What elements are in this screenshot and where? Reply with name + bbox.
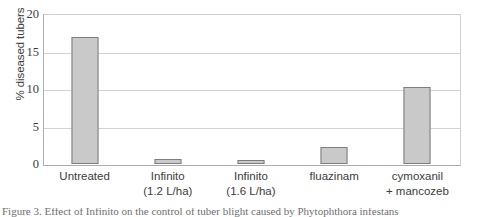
bar-infinito-1-2-lha	[154, 159, 181, 164]
x-tick-label-cymoxanil-mancozeb: cymoxanil + mancozeb	[376, 169, 459, 199]
bar-slot-infinito-12	[126, 14, 209, 164]
x-tick-label-fluazinam: fluazinam	[293, 169, 376, 184]
bar-cymoxanil-mancozeb	[404, 87, 431, 164]
bar-untreated	[71, 37, 98, 164]
bar-infinito-1-6-lha	[237, 160, 264, 165]
x-axis-tick-labels: Untreated Infinito (1.2 L/ha) Infinito (…	[43, 169, 459, 205]
x-tick-label-infinito-12-line2: (1.2 L/ha)	[126, 184, 209, 199]
x-tick-label-cymoxanil-mancozeb-line2: + mancozeb	[376, 184, 459, 199]
figure-caption-strip: Figure 3. Effect of Infinito on the cont…	[0, 208, 486, 217]
bar-fluazinam	[321, 147, 348, 164]
bar-slot-untreated	[43, 14, 126, 164]
x-tick-label-cymoxanil-mancozeb-line1: cymoxanil	[392, 170, 443, 182]
bar-slot-cymoxanil-mancozeb	[376, 14, 459, 164]
bar-slot-fluazinam	[293, 14, 376, 164]
x-tick-label-infinito-12: Infinito (1.2 L/ha)	[126, 169, 209, 199]
bar-chart-figure: % diseased tubers 0 5 10 15 20 U	[0, 0, 486, 217]
bars-layer	[43, 14, 459, 164]
figure-caption: Figure 3. Effect of Infinito on the cont…	[2, 208, 399, 217]
y-axis-tick-labels: 0 5 10 15 20	[0, 14, 39, 164]
x-tick-label-infinito-16-line1: Infinito	[234, 170, 268, 182]
y-tick-label-5: 5	[3, 119, 39, 134]
x-tick-label-infinito-12-line1: Infinito	[151, 170, 185, 182]
bar-slot-infinito-16	[209, 14, 292, 164]
x-tick-label-infinito-16-line2: (1.6 L/ha)	[209, 184, 292, 199]
y-tick-label-20: 20	[3, 7, 39, 22]
x-tick-label-infinito-16: Infinito (1.6 L/ha)	[209, 169, 292, 199]
y-tick-label-15: 15	[3, 44, 39, 59]
y-tick-label-10: 10	[3, 82, 39, 97]
x-tick-label-fluazinam-line1: fluazinam	[310, 170, 359, 182]
x-tick-label-untreated: Untreated	[43, 169, 126, 184]
y-tick-label-0: 0	[3, 157, 39, 172]
x-tick-label-untreated-line1: Untreated	[59, 170, 110, 182]
